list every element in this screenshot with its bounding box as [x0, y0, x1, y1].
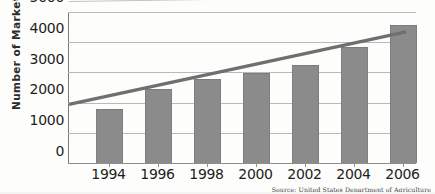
bar-2000: [243, 73, 270, 163]
bar-2004: [341, 47, 368, 163]
scan-edge: [0, 192, 435, 194]
y-tick-label: 2000: [20, 81, 64, 97]
gridline-5000: [68, 12, 416, 13]
y-tick-label: 4000: [20, 20, 64, 36]
plot-area: [68, 12, 416, 163]
bar-2002: [292, 65, 319, 163]
bar-1994: [96, 109, 123, 163]
y-axis-line: [68, 12, 69, 163]
bar-chart-figure: Number of Markets 0 1000 2000 3000 4000 …: [0, 0, 435, 194]
y-axis-tick-labels: 0 1000 2000 3000 4000 5000: [20, 0, 64, 166]
top-border-line: [69, 0, 416, 2]
bar-1996: [145, 89, 172, 163]
y-tick-label: 3000: [20, 51, 64, 67]
bar-1998: [194, 79, 221, 163]
y-tick-label: 0: [20, 143, 64, 159]
gridline-4000: [68, 42, 416, 43]
y-tick-label: 1000: [20, 112, 64, 128]
gridline-0: [68, 163, 416, 164]
bar-2006: [390, 25, 417, 163]
x-tick-label-2006: 2006: [373, 166, 433, 182]
y-tick-label: 5000: [20, 0, 64, 5]
x-axis-tick-labels: 1994 1996 1998 2000 2002 2004 2006: [68, 166, 416, 188]
